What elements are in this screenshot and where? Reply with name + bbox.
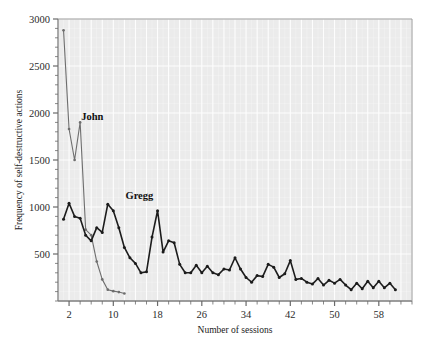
data-point: [316, 277, 319, 280]
data-point: [350, 288, 353, 291]
data-point: [117, 291, 120, 294]
data-point: [139, 271, 142, 274]
x-tick-label: 10: [108, 309, 119, 320]
data-point: [300, 277, 303, 280]
data-point: [305, 281, 308, 284]
data-point: [245, 276, 248, 279]
data-point: [344, 284, 347, 287]
data-point: [178, 263, 181, 266]
data-point: [377, 280, 380, 283]
data-point: [383, 286, 386, 289]
y-tick-label: 3000: [29, 14, 50, 25]
y-tick-label: 2000: [29, 108, 50, 119]
y-tick-label: 2500: [29, 61, 50, 72]
data-point: [294, 278, 297, 281]
data-point: [289, 259, 292, 262]
data-point: [261, 275, 264, 278]
data-point: [68, 128, 71, 131]
data-point: [106, 203, 109, 206]
data-point: [184, 271, 187, 274]
x-tick-label: 18: [152, 309, 163, 320]
data-point: [123, 292, 126, 295]
data-point: [134, 262, 137, 265]
chart-container: 50010001500200025003000210182634425058Nu…: [0, 0, 432, 343]
data-point: [250, 281, 253, 284]
data-point: [151, 236, 154, 239]
data-point: [162, 251, 165, 254]
data-point: [222, 268, 225, 271]
x-tick-label: 34: [241, 309, 252, 320]
data-point: [101, 278, 104, 281]
data-point: [156, 209, 159, 212]
data-point: [217, 273, 220, 276]
data-point: [90, 234, 93, 237]
x-tick-label: 58: [374, 309, 385, 320]
x-tick-label: 2: [66, 309, 71, 320]
data-point: [372, 286, 375, 289]
data-point: [272, 266, 275, 269]
data-point: [123, 246, 126, 249]
data-point: [101, 231, 104, 234]
data-point: [228, 268, 231, 271]
data-point: [117, 226, 120, 229]
data-point: [95, 260, 98, 263]
series-label-john: John: [81, 111, 103, 122]
x-tick-label: 50: [329, 309, 340, 320]
data-point: [195, 264, 198, 267]
data-point: [283, 272, 286, 275]
data-point: [73, 215, 76, 218]
x-axis-ticks: 210182634425058: [66, 301, 412, 320]
data-point: [62, 29, 65, 32]
data-point: [234, 256, 237, 259]
data-point: [73, 159, 76, 162]
x-tick-label: 26: [197, 309, 208, 320]
data-point: [388, 282, 391, 285]
data-point: [62, 218, 65, 221]
data-point: [95, 226, 98, 229]
data-point: [167, 239, 170, 242]
data-point: [394, 288, 397, 291]
y-tick-label: 500: [34, 249, 50, 260]
data-point: [206, 265, 209, 268]
y-tick-label: 1500: [29, 155, 50, 166]
y-axis-ticks: 50010001500200025003000: [29, 14, 58, 301]
line-chart: 50010001500200025003000210182634425058Nu…: [0, 0, 432, 343]
data-point: [366, 280, 369, 283]
data-point: [200, 271, 203, 274]
data-point: [90, 239, 93, 242]
data-point: [211, 271, 214, 274]
data-point: [84, 234, 87, 237]
data-point: [145, 270, 148, 273]
data-point: [311, 283, 314, 286]
data-point: [256, 274, 259, 277]
data-point: [355, 282, 358, 285]
data-point: [267, 263, 270, 266]
data-point: [278, 276, 281, 279]
data-point: [189, 271, 192, 274]
y-axis-title: Frequency of self-destructive actions: [14, 89, 24, 230]
data-point: [173, 241, 176, 244]
data-point: [112, 209, 115, 212]
series-label-gregg: Gregg: [125, 190, 154, 201]
data-point: [333, 282, 336, 285]
data-point: [328, 279, 331, 282]
data-point: [239, 268, 242, 271]
data-point: [361, 287, 364, 290]
data-point: [79, 217, 82, 220]
data-point: [128, 256, 131, 259]
data-point: [106, 288, 109, 291]
y-tick-label: 1000: [29, 202, 50, 213]
data-point: [322, 284, 325, 287]
data-point: [112, 290, 115, 293]
x-tick-label: 42: [285, 309, 296, 320]
x-axis-title: Number of sessions: [198, 325, 273, 335]
data-point: [339, 278, 342, 281]
data-point: [68, 202, 71, 205]
